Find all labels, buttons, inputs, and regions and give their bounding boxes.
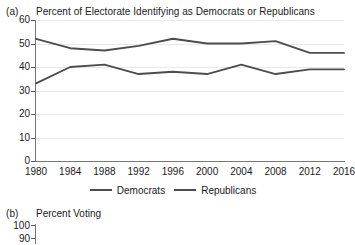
series-line-democrats (36, 65, 344, 84)
legend-swatch-icon (90, 189, 112, 191)
legend-item-democrats[interactable]: Democrats (90, 185, 165, 196)
panel-b-y-tick-label: 100 (13, 221, 30, 231)
x-tick-label: 1984 (59, 166, 81, 177)
panel-b-y-axis-line (35, 224, 36, 244)
panel-a-plot-area: 0102030405060 (0, 18, 346, 163)
panel-b-label: (b) (6, 208, 19, 219)
panel-a-x-axis-labels: 1980198419881992199620002004200820122016 (0, 166, 346, 180)
series-line-republicans (36, 39, 344, 53)
panel-a-chart: (a) Percent of Electorate Identifying as… (0, 0, 346, 200)
legend-swatch-icon (174, 189, 196, 191)
panel-b-y-tick-label: 90 (19, 234, 30, 244)
panel-a-legend: DemocratsRepublicans (0, 183, 346, 197)
x-tick-label: 1992 (128, 166, 150, 177)
panel-a-series-lines (0, 18, 346, 163)
panel-b-y-axis-labels: 10090 (0, 221, 30, 245)
x-tick-label: 2004 (230, 166, 252, 177)
legend-label: Democrats (117, 185, 165, 196)
x-tick-label: 2016 (333, 166, 355, 177)
x-tick-label: 1988 (93, 166, 115, 177)
x-tick-label: 2000 (196, 166, 218, 177)
panel-b-title: Percent Voting (36, 208, 101, 219)
x-tick-label: 2008 (264, 166, 286, 177)
x-tick-label: 2012 (299, 166, 321, 177)
x-tick-label: 1996 (162, 166, 184, 177)
panel-a-title: Percent of Electorate Identifying as Dem… (36, 6, 315, 17)
panel-a-label: (a) (6, 6, 19, 17)
x-tick-label: 1980 (25, 166, 47, 177)
legend-item-republicans[interactable]: Republicans (174, 185, 256, 196)
panel-b-chart: (b) Percent Voting 10090 (0, 206, 346, 241)
legend-label: Republicans (201, 185, 256, 196)
